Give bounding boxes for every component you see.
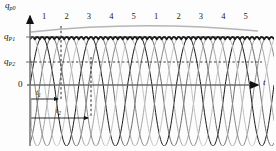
- curve-piston-3: [30, 37, 274, 146]
- cycle-number: 1: [42, 11, 46, 21]
- y-tick-label-qp1: qP1: [4, 31, 15, 41]
- curve-piston-5: [30, 37, 274, 146]
- curve-group: [30, 26, 274, 146]
- cycle-number: 1: [154, 11, 158, 21]
- origin-label: 0: [18, 79, 23, 89]
- cycle-number: 5: [244, 11, 248, 21]
- upper-band-arc: [31, 26, 258, 32]
- x-axis-label: t: [263, 78, 266, 87]
- t1-label: t1: [36, 88, 41, 97]
- cycle-number: 5: [132, 11, 136, 21]
- cycle-number: 2: [64, 11, 68, 21]
- curve-piston-2: [30, 37, 274, 146]
- cycle-number: 3: [87, 11, 91, 21]
- cycle-number: 3: [199, 11, 203, 21]
- curve-piston-4: [30, 37, 274, 146]
- curve-piston-1: [30, 37, 274, 146]
- flow-pulsation-figure: qp0 t 0 qP1 qP2 t1 t2 1234512345: [0, 0, 276, 151]
- t2-label: t2: [56, 106, 61, 115]
- y-axis-label: qp0: [5, 1, 16, 10]
- y-tick-label-qp2: qP2: [4, 56, 15, 66]
- cycle-number: 4: [221, 11, 225, 21]
- cycle-number: 4: [109, 11, 113, 21]
- cycle-number: 2: [176, 11, 180, 21]
- chart-canvas: [0, 0, 276, 151]
